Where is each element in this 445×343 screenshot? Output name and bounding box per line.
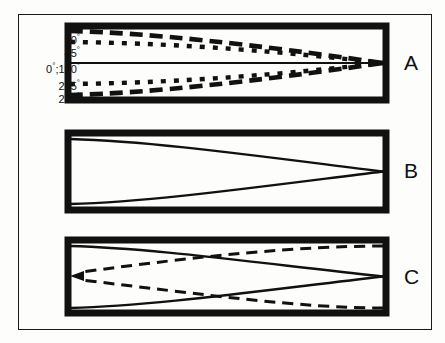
panel-letter-a: A — [404, 52, 418, 73]
panel-c-rays-solid — [70, 246, 383, 308]
panel-c-graphic — [0, 0, 445, 343]
panel-c-box — [68, 240, 386, 313]
panel-c-rays-dashed — [70, 246, 383, 308]
panel-letter-b: B — [404, 160, 418, 181]
panel-c-ray-lower-solid — [70, 277, 383, 309]
panel-letter-c: C — [404, 266, 419, 287]
figure-root: 90° 45° 0°;180° 225° 270° — [0, 0, 445, 343]
panel-c-arrowhead-icon — [70, 271, 84, 281]
panel-c-ray-upper-solid — [70, 246, 383, 277]
